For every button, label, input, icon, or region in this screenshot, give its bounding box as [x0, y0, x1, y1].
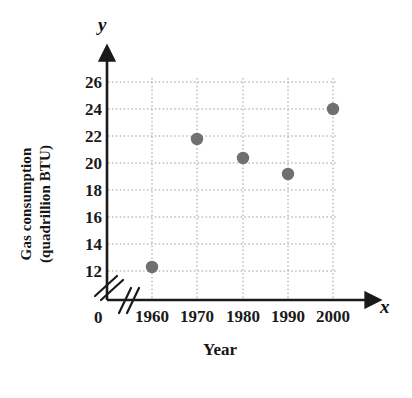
x-axis-title: Year	[160, 340, 280, 360]
y-tick-label-14: 14	[68, 236, 102, 253]
y-tick-label-12: 12	[68, 263, 102, 280]
data-point-1960[interactable]	[146, 261, 158, 273]
y-axis-variable-label: y	[98, 14, 106, 36]
plot-canvas	[0, 0, 412, 398]
y-tick-label-26: 26	[68, 74, 102, 91]
x-tick-label-2000: 2000	[305, 308, 361, 325]
horizontal-gridlines	[108, 82, 336, 271]
y-axis-title-line2: (quadrillion BTU)	[36, 99, 55, 309]
data-point-1980[interactable]	[237, 152, 249, 164]
y-tick-label-20: 20	[68, 155, 102, 172]
data-point-1970[interactable]	[191, 133, 203, 145]
y-tick-label-22: 22	[68, 128, 102, 145]
vertical-gridlines	[152, 78, 333, 300]
y-tick-label-24: 24	[68, 101, 102, 118]
y-axis-title: Gas consumption (quadrillion BTU)	[17, 99, 55, 309]
y-tick-label-18: 18	[68, 182, 102, 199]
x-axis-variable-label: x	[380, 296, 390, 318]
origin-label: 0	[94, 308, 103, 328]
data-point-1990[interactable]	[282, 168, 294, 180]
y-tick-label-16: 16	[68, 209, 102, 226]
y-axis-title-line1: Gas consumption	[17, 99, 36, 309]
scatter-plot-figure: 26 24 22 20 18 16 14 12 1960 1970 1980 1…	[0, 0, 412, 398]
data-point-2000[interactable]	[327, 103, 339, 115]
